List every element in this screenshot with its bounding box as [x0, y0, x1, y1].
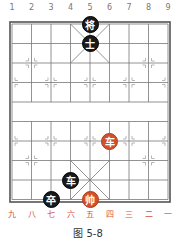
- piece-black-soldier[interactable]: 卒: [43, 191, 60, 208]
- piece-black-advisor[interactable]: 士: [82, 35, 99, 52]
- file-label-bottom: 三: [122, 209, 136, 221]
- figure-caption: 图 5-8: [0, 225, 176, 240]
- file-label-bottom: 六: [64, 209, 78, 221]
- file-label-bottom: 九: [5, 209, 19, 221]
- piece-red-chariot[interactable]: 车: [101, 133, 118, 150]
- bottom-file-labels: 九 八 七 六 五 四 三 二 一: [0, 209, 176, 221]
- file-label-bottom: 五: [83, 209, 97, 221]
- file-label-bottom: 八: [25, 209, 39, 221]
- piece-black-general[interactable]: 将: [82, 16, 99, 33]
- piece-black-chariot[interactable]: 车: [62, 172, 79, 189]
- file-label-bottom: 四: [103, 209, 117, 221]
- file-label-bottom: 一: [161, 209, 175, 221]
- file-label-bottom: 七: [44, 209, 58, 221]
- piece-red-general[interactable]: 帅: [82, 191, 99, 208]
- file-label-bottom: 二: [142, 209, 156, 221]
